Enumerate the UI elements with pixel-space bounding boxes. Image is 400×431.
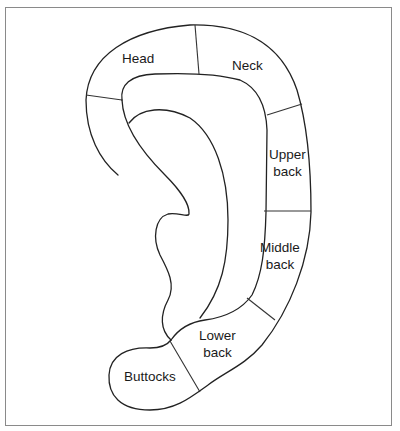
label-middle-back-line2: back [260,256,300,273]
label-middle-back: Middle back [260,239,300,273]
label-upper-back-line1: Upper [269,146,306,163]
label-upper-back-line2: back [269,163,306,180]
divider-neck-upper-back [267,104,302,115]
label-lower-back: Lower back [199,327,236,361]
label-middle-back-line1: Middle [260,239,300,256]
inner-helix-edge [122,74,267,340]
divider-middle-lower-back [247,298,275,320]
label-lower-back-line1: Lower [199,327,236,344]
label-buttocks: Buttocks [124,368,176,385]
label-upper-back: Upper back [269,146,306,180]
divider-head-left [86,95,122,100]
concha-outline [122,100,189,340]
label-neck: Neck [232,57,263,74]
divider-head-neck [195,25,199,74]
label-lower-back-line2: back [199,344,236,361]
ear-outline-diagram [0,0,400,431]
label-head: Head [122,50,154,67]
